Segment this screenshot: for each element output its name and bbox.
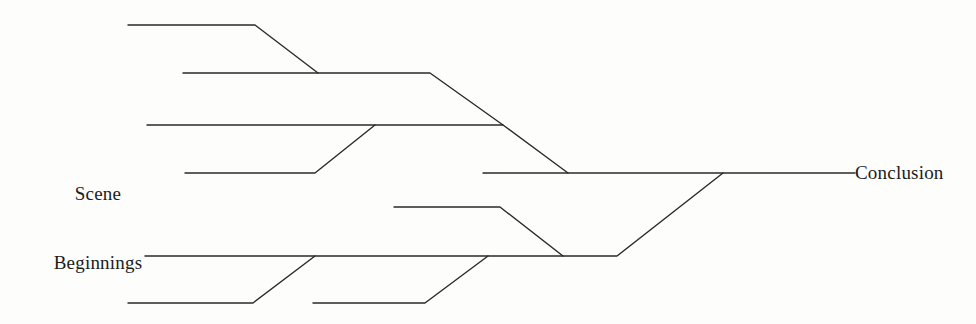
flow-line-track-8-bottom-right bbox=[313, 256, 488, 303]
conclusion-label: Conclusion bbox=[855, 161, 944, 184]
flow-line-group bbox=[128, 25, 855, 303]
flow-line-track-2 bbox=[183, 73, 503, 125]
flow-line-track-6 bbox=[145, 173, 723, 256]
scene-beginnings-label-line1: Scene bbox=[38, 182, 158, 205]
flow-line-track-3 bbox=[147, 125, 568, 173]
scene-beginnings-label: Scene Beginnings bbox=[38, 136, 158, 320]
diagram-canvas: Scene Beginnings Conclusion bbox=[0, 0, 976, 324]
scene-beginnings-label-line2: Beginnings bbox=[38, 251, 158, 274]
flow-line-track-5-mid bbox=[394, 207, 563, 256]
flow-line-track-4 bbox=[185, 125, 375, 173]
flow-line-track-1-top bbox=[128, 25, 318, 73]
